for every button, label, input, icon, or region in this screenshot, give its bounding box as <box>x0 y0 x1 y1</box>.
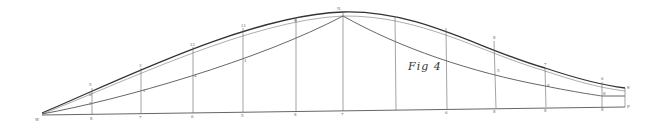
svg-text:N: N <box>337 6 341 11</box>
svg-text:6: 6 <box>89 92 92 97</box>
svg-text:7: 7 <box>544 62 547 67</box>
svg-text:8: 8 <box>493 109 496 114</box>
svg-text:5: 5 <box>241 113 244 118</box>
svg-text:7: 7 <box>341 112 344 117</box>
baseline <box>42 107 625 115</box>
svg-text:8: 8 <box>544 108 547 113</box>
svg-text:8: 8 <box>294 112 297 117</box>
svg-text:7: 7 <box>139 115 142 120</box>
svg-text:8: 8 <box>601 107 604 112</box>
svg-text:5: 5 <box>497 68 500 73</box>
inner-curve <box>42 16 625 114</box>
svg-text:1: 1 <box>244 58 247 63</box>
lower-curve <box>42 16 625 114</box>
svg-text:6: 6 <box>191 114 194 119</box>
svg-text:1: 1 <box>143 88 146 93</box>
point-labels: W N 8 7 6 5 8 7 6 8 8 8 P 5 3 12 11 9 8 … <box>35 6 630 122</box>
svg-text:W: W <box>35 117 40 122</box>
svg-text:8: 8 <box>603 91 606 96</box>
svg-text:9: 9 <box>627 85 630 90</box>
svg-text:6: 6 <box>601 76 604 81</box>
figure-4-diagram: W N 8 7 6 5 8 7 6 8 8 8 P 5 3 12 11 9 8 … <box>0 0 663 131</box>
figure-caption: Fig 4 <box>408 60 442 73</box>
svg-text:3: 3 <box>139 63 142 68</box>
svg-text:5: 5 <box>89 82 92 87</box>
svg-text:6: 6 <box>445 110 448 115</box>
svg-text:8: 8 <box>90 116 93 121</box>
svg-text:11: 11 <box>241 23 246 28</box>
svg-text:P: P <box>627 104 630 109</box>
outer-curve <box>42 12 625 113</box>
svg-text:8: 8 <box>493 35 496 40</box>
svg-text:4: 4 <box>194 73 197 78</box>
svg-text:12: 12 <box>190 42 196 47</box>
